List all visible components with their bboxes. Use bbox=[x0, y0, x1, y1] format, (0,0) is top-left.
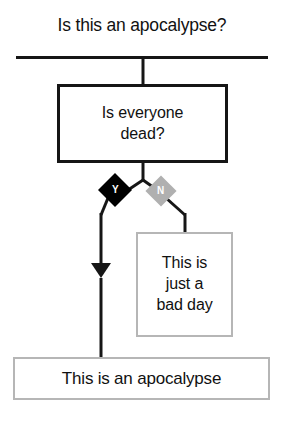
decision-node-is-everyone-dead: Is everyone dead? bbox=[57, 84, 228, 163]
no-branch-label: N bbox=[157, 186, 164, 196]
connector-no-diagonal bbox=[166, 198, 185, 215]
decision-node-line2: dead? bbox=[121, 125, 165, 142]
apocalypse-label: This is an apocalypse bbox=[62, 369, 221, 389]
yes-branch-label: Y bbox=[112, 185, 119, 195]
flowchart-diagram: Is this an apocalypse? Is everyone dead?… bbox=[0, 0, 284, 425]
outcome-node-bad-day: This is just a bad day bbox=[136, 232, 233, 337]
outcome-node-apocalypse: This is an apocalypse bbox=[13, 357, 270, 400]
connector-yes-diagonal bbox=[101, 198, 108, 215]
arrowhead-down-icon bbox=[91, 263, 111, 278]
bad-day-line2: just a bbox=[166, 275, 204, 292]
bad-day-line1: This is bbox=[162, 254, 208, 271]
decision-node-line1: Is everyone bbox=[102, 104, 184, 121]
bad-day-line3: bad day bbox=[156, 296, 212, 313]
